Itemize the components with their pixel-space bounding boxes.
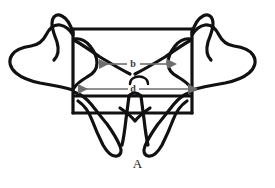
right-transverse-process-outline xyxy=(192,25,255,90)
left-inferior-articular-outline xyxy=(74,92,121,156)
right-lamina-outline xyxy=(135,40,191,74)
spinous-process-right-edge xyxy=(141,96,148,145)
panel-label: A xyxy=(0,156,275,172)
dimension-d-label: d xyxy=(130,83,136,94)
dimension-d: d xyxy=(78,83,188,94)
left-superior-articular-process-outline xyxy=(52,15,73,60)
right-superior-articular-process-outline xyxy=(192,15,213,60)
dimension-b: b xyxy=(99,58,167,69)
figure-container: b d A xyxy=(0,0,275,188)
right-inferior-articular-outline xyxy=(144,92,191,156)
left-lamina-outline xyxy=(74,40,130,74)
dimension-b-label: b xyxy=(130,58,136,69)
left-transverse-process-outline xyxy=(10,25,73,90)
spinous-process-left-edge xyxy=(122,96,129,145)
